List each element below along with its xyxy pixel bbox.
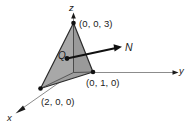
x-axis-label: x	[7, 113, 12, 123]
y-axis-arrowhead	[173, 70, 179, 75]
vertex-dot-z	[71, 21, 76, 26]
coordinate-diagram: z y x (0, 0, 3) (0, 1, 0) (2, 0, 0) Q N	[0, 0, 190, 128]
point-label-y-intercept: (0, 1, 0)	[86, 78, 120, 88]
point-label-x-intercept: (2, 0, 0)	[41, 97, 75, 107]
point-label-z-intercept: (0, 0, 3)	[79, 19, 113, 29]
z-axis-label: z	[69, 3, 74, 13]
z-axis-arrowhead	[71, 13, 76, 19]
normal-vector-label: N	[125, 42, 133, 53]
fold-line-y	[74, 72, 94, 73]
y-axis-label: y	[179, 66, 184, 76]
vertex-dot-x	[38, 86, 43, 91]
point-q-label: Q	[58, 51, 66, 61]
vertex-dot-y	[91, 70, 96, 75]
normal-vector-arrowhead	[114, 44, 123, 51]
